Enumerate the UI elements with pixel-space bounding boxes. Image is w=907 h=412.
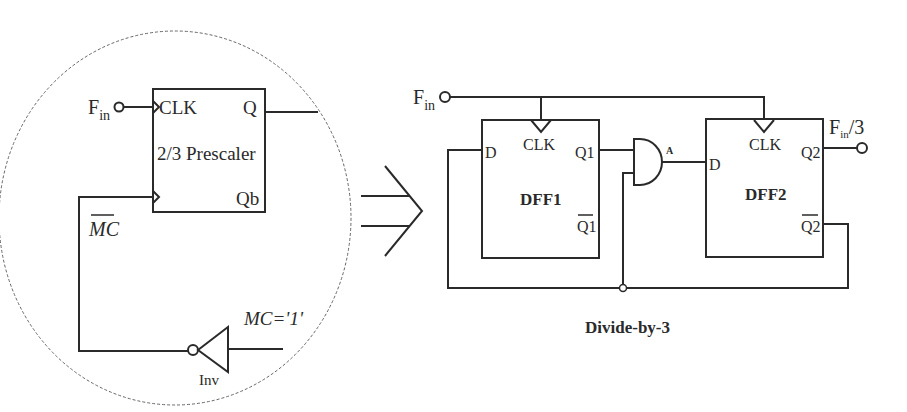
fin-label-left: Fin: [88, 96, 110, 123]
fin-terminal-right: [440, 92, 450, 102]
and-gate-icon: [634, 139, 662, 185]
dff1-title: DFF1: [520, 190, 562, 209]
output-label: Fin/3: [829, 116, 864, 140]
and-output-label: A: [666, 145, 674, 156]
dashed-enclosure: [0, 31, 351, 405]
divide-by-3-caption: Divide-by-3: [585, 318, 670, 337]
fin-label-right: Fin: [413, 86, 435, 113]
fin-terminal-left: [115, 103, 124, 112]
dff2-clk-label: CLK: [749, 136, 781, 153]
mc-bar-label: MC: [88, 218, 120, 240]
mc-value-label: MC='1': [243, 308, 304, 329]
dff2-q-label: Q2: [801, 144, 821, 161]
inverter-triangle-icon: [198, 327, 228, 372]
output-terminal: [857, 143, 867, 153]
inverter-label: Inv: [199, 372, 219, 388]
dff1-d-label: D: [485, 144, 497, 161]
dff2-title: DFF2: [745, 185, 787, 204]
prescaler-q-label: Q: [243, 97, 257, 118]
dff1-qbar-label: Q1: [577, 218, 597, 235]
dff1-clk-triangle-icon: [531, 120, 551, 132]
dff1-q-label: Q1: [575, 144, 595, 161]
implies-arrow-icon: [361, 166, 422, 256]
dff1-clk-label: CLK: [523, 136, 555, 153]
circuit-diagram: Fin CLK Q 2/3 Prescaler Qb MC Inv MC='1'…: [0, 0, 907, 412]
junction-node: [620, 285, 627, 292]
prescaler-title: 2/3 Prescaler: [157, 143, 256, 164]
dff2-qbar-label: Q2: [801, 218, 821, 235]
prescaler-qb-label: Qb: [236, 188, 259, 209]
prescaler-clk-label: CLK: [159, 97, 197, 118]
dff2-d-label: D: [709, 156, 721, 173]
dff2-clk-triangle-icon: [754, 120, 774, 132]
